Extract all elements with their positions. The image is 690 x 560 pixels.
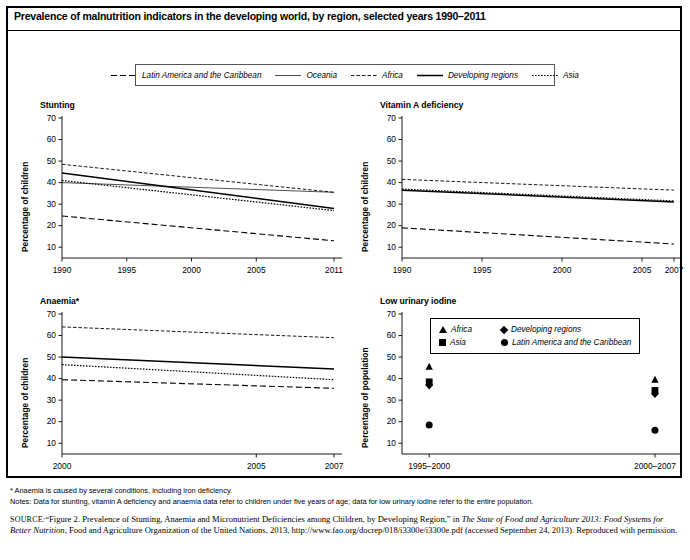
legend-item-label: Asia: [563, 71, 579, 80]
legend-item-label: Latin America and the Caribbean: [142, 71, 261, 80]
circle-marker-icon: [501, 339, 508, 346]
legend-item-label: Oceania: [306, 71, 337, 80]
scatter-legend-label: Developing regions: [511, 325, 581, 334]
scatter-legend-label: Asia: [450, 338, 466, 347]
source-text-1: “Figure 2. Prevalence of Stunting, Anaem…: [45, 514, 461, 524]
title-divider: [8, 30, 680, 31]
series-line-latin-america-and-the-caribbean: [402, 228, 674, 244]
series-line-asia: [62, 180, 334, 210]
chart-legend: Latin America and the CaribbeanOceaniaAf…: [135, 64, 555, 86]
square-marker-icon: [439, 339, 446, 346]
panel-low-urinary-iodine: Low urinary iodinePercentage of populati…: [358, 296, 684, 486]
scatter-legend-label: Latin America and the Caribbean: [512, 338, 631, 347]
series-line-developing-regions: [62, 357, 334, 369]
footnote-notes: Notes: Data for stunting, vitamin A defi…: [10, 497, 680, 508]
legend-item-asia: Asia: [532, 71, 579, 80]
source-note: SOURCE:“Figure 2. Prevalence of Stunting…: [10, 514, 682, 537]
scatter-legend-item-developing-regions: Developing regions: [501, 325, 581, 334]
source-label: SOURCE:: [10, 515, 45, 524]
legend-item-africa: Africa: [351, 71, 403, 80]
data-point-africa: [426, 363, 433, 370]
panel-anaemia: Anaemia*Percentage of children1020304050…: [18, 296, 344, 486]
legend-item-label: Developing regions: [448, 71, 518, 80]
footnote-asterisk: * Anaemia is caused by several condition…: [10, 486, 680, 497]
diamond-marker-icon: [500, 325, 508, 333]
legend-line-swatch-icon: [111, 71, 137, 80]
series-line-asia: [402, 189, 674, 201]
panel-vitamin-a-deficiency: Vitamin A deficiencyPercentage of childr…: [358, 100, 684, 290]
legend-line-swatch-icon: [275, 71, 301, 80]
series-line-developing-regions: [402, 190, 674, 202]
data-point-latin-america-and-the-caribbean: [651, 427, 658, 434]
legend-item-latin-america-and-the-caribbean: Latin America and the Caribbean: [111, 71, 261, 80]
series-line-latin-america-and-the-caribbean: [62, 380, 334, 389]
legend-line-swatch-icon: [351, 71, 377, 80]
scatter-legend-item-latin-america-and-the-caribbean: Latin America and the Caribbean: [501, 338, 631, 347]
legend-line-swatch-icon: [532, 71, 558, 80]
scatter-legend-item-asia: Asia: [439, 338, 497, 347]
footnotes: * Anaemia is caused by several condition…: [10, 486, 680, 507]
figure-root: Prevalence of malnutrition indicators in…: [0, 0, 690, 560]
scatter-legend-row: AfricaDeveloping regions: [439, 323, 631, 336]
source-text-2: , Food and Agriculture Organization of t…: [65, 525, 678, 535]
legend-line-swatch-icon: [417, 71, 443, 80]
page-title: Prevalence of malnutrition indicators in…: [14, 10, 486, 22]
series-line-latin-america-and-the-caribbean: [62, 216, 334, 241]
data-point-africa: [651, 376, 658, 383]
legend-item-oceania: Oceania: [275, 71, 337, 80]
data-point-latin-america-and-the-caribbean: [426, 421, 433, 428]
plot-area: [18, 100, 346, 272]
scatter-legend-row: AsiaLatin America and the Caribbean: [439, 336, 631, 349]
scatter-legend-label: Africa: [451, 325, 472, 334]
plot-area: [18, 296, 346, 468]
legend-item-developing-regions: Developing regions: [417, 71, 518, 80]
scatter-legend: AfricaDeveloping regionsAsiaLatin Americ…: [430, 318, 640, 354]
scatter-legend-item-africa: Africa: [439, 325, 497, 334]
plot-area: [358, 100, 686, 272]
series-line-africa: [62, 327, 334, 338]
triangle-marker-icon: [439, 326, 447, 333]
panel-stunting: StuntingPercentage of children1020304050…: [18, 100, 344, 290]
series-line-africa: [402, 179, 674, 190]
legend-item-label: Africa: [382, 71, 403, 80]
